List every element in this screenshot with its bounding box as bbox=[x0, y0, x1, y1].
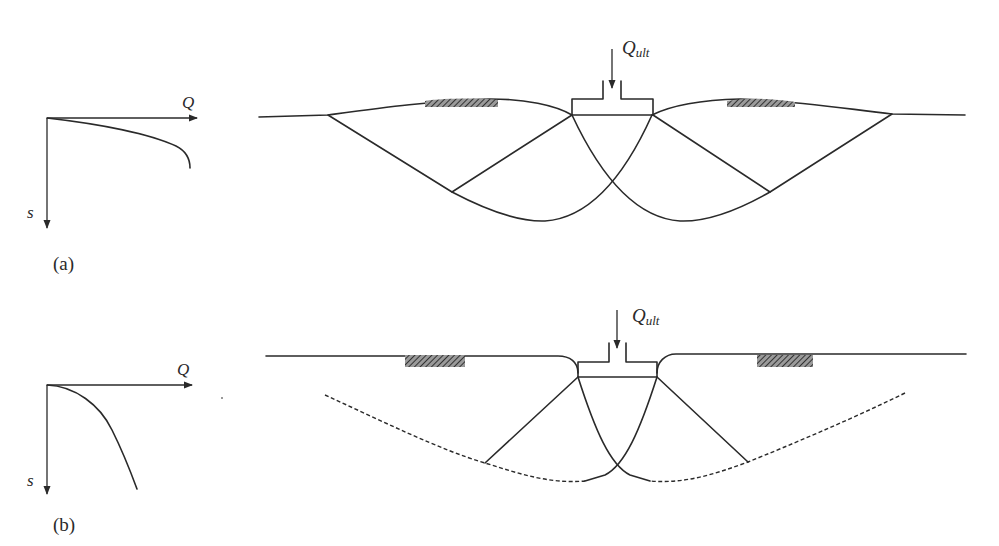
surcharge-hatch-left bbox=[405, 355, 465, 367]
panel-a: Q s (a) Qult bbox=[27, 37, 965, 275]
q-axis-label: Q bbox=[182, 93, 194, 112]
panel-b: Q s (b) Qult bbox=[27, 305, 966, 536]
partial-slip-surface-left bbox=[325, 395, 585, 482]
q-axis-label: Q bbox=[177, 360, 189, 379]
footing bbox=[578, 343, 657, 377]
ground-surface-right bbox=[652, 99, 965, 115]
heave-hatch-left bbox=[425, 99, 498, 107]
radial-line-left bbox=[485, 377, 578, 463]
radial-line-right bbox=[657, 377, 748, 462]
panel-b-caption: (b) bbox=[53, 514, 75, 536]
wedge-slip-right bbox=[585, 377, 657, 481]
panel-b-soil-failure: Qult bbox=[266, 305, 966, 482]
radial-line-left bbox=[452, 115, 572, 192]
load-settlement-curve bbox=[47, 118, 190, 168]
s-axis-label: s bbox=[27, 203, 34, 222]
qult-label: Qult bbox=[622, 37, 650, 60]
radial-line-right bbox=[653, 115, 770, 192]
bearing-capacity-failure-diagram: Q s (a) Qult Q bbox=[0, 0, 999, 546]
stray-mark bbox=[221, 397, 223, 399]
load-settlement-curve bbox=[47, 385, 137, 489]
ground-surface-left bbox=[259, 99, 572, 117]
panel-a-load-settlement-graph: Q s bbox=[27, 93, 197, 228]
qult-label: Qult bbox=[632, 305, 660, 328]
wedge-slip-left bbox=[578, 377, 650, 481]
panel-a-caption: (a) bbox=[53, 253, 74, 275]
heave-hatch-right bbox=[727, 99, 795, 107]
panel-a-soil-failure: Qult bbox=[259, 37, 965, 221]
panel-b-load-settlement-graph: Q s bbox=[27, 360, 192, 494]
s-axis-label: s bbox=[27, 471, 34, 490]
surcharge-hatch-right bbox=[757, 355, 813, 367]
